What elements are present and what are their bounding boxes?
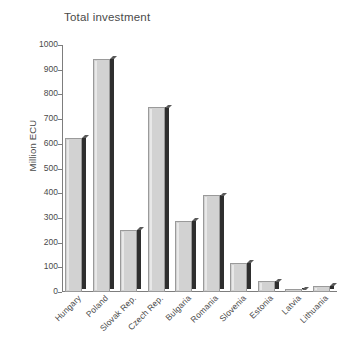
y-tick-label: 700 [44, 113, 58, 123]
plot-area: 01002003004005006007008009001000 [62, 45, 337, 292]
y-tick-label: 800 [44, 88, 58, 98]
bar [285, 289, 302, 292]
bar-highlight [177, 223, 179, 290]
chart-title: Total investment [64, 11, 150, 23]
bar-highlight [232, 265, 234, 290]
bar-face [203, 195, 220, 292]
bar-shadow-side [220, 195, 224, 289]
bar-shadow-top [247, 260, 254, 263]
bar-highlight [67, 140, 69, 290]
x-tick-label: Hungary [32, 293, 83, 344]
bar-shadow-top [275, 279, 282, 282]
bar [65, 138, 82, 292]
bar [175, 221, 192, 292]
bar-highlight [150, 109, 152, 290]
bar-shadow-side [82, 138, 86, 289]
bar [93, 59, 110, 292]
bar-highlight [205, 197, 207, 290]
bar-face [175, 221, 192, 292]
bar [148, 107, 165, 292]
bar [120, 230, 137, 292]
x-axis-tick-labels: HungaryPolandSlovak Rep.Czech Rep.Bulgar… [62, 293, 349, 353]
bar-shadow-side [165, 107, 169, 289]
bar-series [62, 45, 337, 292]
bar-shadow-side [275, 281, 279, 289]
bar-highlight [95, 61, 97, 290]
y-tick-label: 400 [44, 187, 58, 197]
bar-face [65, 138, 82, 292]
bar-highlight [260, 283, 262, 290]
bar-shadow-top [110, 56, 117, 59]
bar-shadow-top [82, 135, 89, 138]
bar-face [313, 286, 330, 292]
bar-shadow-top [302, 287, 309, 290]
bar-highlight [315, 288, 317, 290]
bar-shadow-side [137, 230, 141, 289]
bar-face [285, 289, 302, 292]
bar-shadow-side [192, 221, 196, 289]
bar-shadow-top [192, 218, 199, 221]
bar-shadow-side [110, 59, 114, 289]
y-tick-label: 0 [53, 286, 58, 296]
bar [313, 286, 330, 292]
y-tick-label: 1000 [39, 39, 58, 49]
bar-shadow-side [330, 286, 334, 289]
y-tick-label: 600 [44, 138, 58, 148]
y-tick-label: 200 [44, 237, 58, 247]
bar [230, 263, 247, 292]
bar-shadow-top [220, 193, 227, 196]
bar-face [230, 263, 247, 292]
y-tick-label: 100 [44, 261, 58, 271]
bar-shadow-top [137, 227, 144, 230]
bar-highlight [122, 232, 124, 290]
bar [203, 195, 220, 292]
bar-shadow-top [165, 105, 172, 108]
bar-face [148, 107, 165, 292]
y-tick-label: 300 [44, 212, 58, 222]
bar [258, 281, 275, 292]
bar-shadow-side [247, 263, 251, 289]
bar-face [93, 59, 110, 292]
bar-face [258, 281, 275, 292]
bar-face [120, 230, 137, 292]
y-axis-label: Million ECU [27, 101, 38, 191]
y-tick-label: 900 [44, 64, 58, 74]
y-tick-label: 500 [44, 163, 58, 173]
chart-figure: Total investment Million ECU 01002003004… [0, 0, 349, 356]
bar-shadow-top [330, 283, 337, 286]
